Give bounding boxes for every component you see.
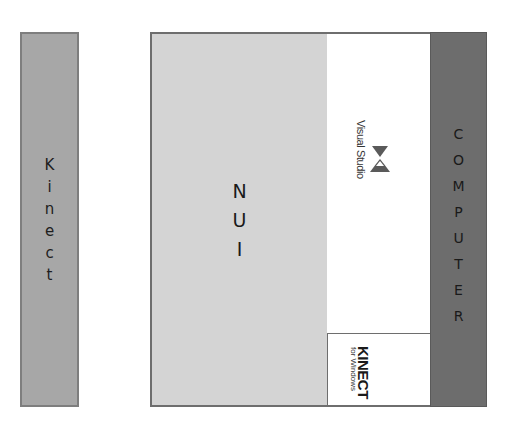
kinect-letter: K	[45, 154, 55, 176]
computer-letter: T	[454, 251, 463, 277]
kinect-for-windows-block: KINECT for Windows	[327, 333, 431, 407]
kinect-for-windows-subtitle: for Windows	[349, 347, 358, 391]
kinect-for-windows-logo: KINECT for Windows	[342, 346, 372, 406]
computer-letter: M	[452, 173, 464, 199]
visual-studio-label-wrap: Visual Studio	[353, 120, 367, 200]
computer-letter: P	[454, 199, 462, 225]
kinect-block: K i n e c t	[20, 32, 79, 407]
kinect-letter: t	[47, 264, 53, 286]
kinect-letter: e	[45, 220, 54, 242]
kinect-label: K i n e c t	[22, 154, 77, 286]
nui-letter: I	[237, 235, 243, 264]
computer-letter: E	[454, 277, 463, 303]
nui-label: N U I	[152, 177, 327, 264]
kinect-letter: n	[45, 198, 55, 220]
computer-letter: R	[454, 303, 464, 329]
visual-studio-logo-icon	[368, 144, 392, 174]
computer-label: C O M P U T E R	[431, 121, 486, 329]
computer-block: C O M P U T E R	[430, 32, 487, 407]
computer-letter: C	[454, 121, 464, 147]
computer-letter: O	[453, 147, 464, 173]
nui-letter: N	[232, 177, 246, 206]
nui-letter: U	[233, 206, 247, 235]
nui-block: N U I	[150, 32, 328, 407]
computer-letter: U	[453, 225, 463, 251]
visual-studio-block: Visual Studio	[327, 32, 431, 334]
kinect-letter: c	[45, 242, 53, 264]
kinect-letter: i	[47, 176, 51, 198]
visual-studio-label: Visual Studio	[355, 120, 367, 179]
